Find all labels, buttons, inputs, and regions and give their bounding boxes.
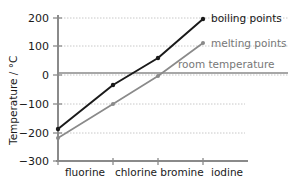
data-point-boiling-fluorine xyxy=(56,127,60,131)
x-label-bromine: bromine xyxy=(160,166,203,178)
halogen-temperature-chart: 200 100 0 −100 −200 −300 fluorine chlori… xyxy=(0,0,307,186)
x-label-iodine: iodine xyxy=(211,166,243,178)
y-tick-label-minus300: −300 xyxy=(19,155,49,168)
legend-label-melting-points: melting points xyxy=(211,37,287,49)
legend-label-room-temperature: room temperature xyxy=(178,58,275,70)
x-label-chlorine: chlorine xyxy=(115,166,157,178)
data-point-melting-chlorine xyxy=(111,102,115,106)
data-point-melting-iodine xyxy=(201,41,205,45)
data-point-boiling-bromine xyxy=(156,56,160,60)
x-label-fluorine: fluorine xyxy=(65,166,105,178)
data-point-melting-fluorine xyxy=(56,136,60,140)
legend-label-boiling-points: boiling points xyxy=(211,12,282,24)
y-tick-label-200: 200 xyxy=(28,12,49,25)
y-tick-label-minus100: −100 xyxy=(19,98,49,111)
y-tick-label-0: 0 xyxy=(42,69,49,82)
y-tick-label-minus200: −200 xyxy=(19,127,49,140)
y-tick-label-100: 100 xyxy=(28,40,49,53)
data-point-melting-bromine xyxy=(156,74,160,78)
chart-page: 200 100 0 −100 −200 −300 fluorine chlori… xyxy=(0,0,307,186)
data-point-boiling-chlorine xyxy=(111,83,115,87)
data-point-boiling-iodine xyxy=(201,17,205,21)
y-axis-title: Temperature / °C xyxy=(7,56,19,146)
